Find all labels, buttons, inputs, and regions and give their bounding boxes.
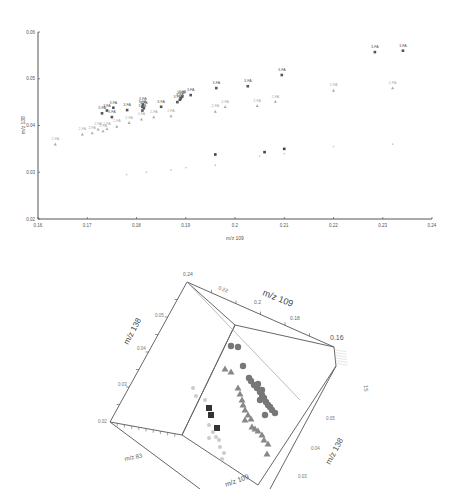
point-label: 2-FA: [99, 124, 107, 128]
point-label: 2-FA: [272, 95, 280, 99]
x-tick-label: 0.24: [428, 223, 437, 228]
x-tick-3d: 0.22: [218, 284, 229, 293]
x-axis-label-3d: m/z 109: [261, 288, 294, 309]
x-tick-3d: 0.16: [330, 334, 344, 341]
x-tick-label: 0.19: [181, 223, 190, 228]
point-label: 2-FA: [88, 126, 96, 130]
x-tick-label: 0.18: [132, 223, 141, 228]
point-label: 3-FA: [399, 44, 407, 48]
x-tick-3d: 0.24: [183, 271, 193, 277]
point-label: 3-FA: [108, 110, 116, 114]
y-tick-label: 0.04: [26, 123, 35, 128]
x-axis-label: m/z 109: [226, 235, 244, 241]
point-label: 2-FA: [138, 112, 146, 116]
point-label: 2-FA: [389, 81, 397, 85]
x2-axis-label-3d: m/z 109: [224, 473, 250, 488]
x-tick-label: 0.21: [280, 223, 289, 228]
y-axis-label: m/z 138: [20, 116, 26, 134]
y-tick-label: 0.06: [26, 30, 35, 35]
plot3d-svg: m/z 109 m/z 138 m/z 83 m/z 109 m/z 138 1…: [0, 245, 454, 489]
point-label: 3-FA: [98, 106, 106, 110]
y-tick-label: 0.05: [26, 76, 35, 81]
point-label: 3-FA: [371, 45, 379, 49]
point-label: 2-FA: [253, 99, 261, 103]
point-label: 3-FA: [157, 100, 165, 104]
point-label: 2-FA: [330, 83, 338, 87]
y-tick-3d: 0.05: [155, 313, 164, 318]
point-label: 2-FA: [113, 119, 121, 123]
point-label: 2-FA: [125, 116, 133, 120]
point-label: 3-FA: [278, 68, 286, 72]
x-tick-3d: 0.18: [290, 315, 300, 321]
x-tick-label: 0.2: [232, 223, 239, 228]
y2-axis-label-3d: m/z 138: [324, 436, 346, 466]
tick-marks-3d: [117, 290, 348, 437]
point-label: 3-FA: [139, 104, 147, 108]
y-axis-label-3d: m/z 138: [122, 316, 144, 346]
data-points-3d: [191, 343, 278, 461]
point-label: 3-FA: [123, 103, 131, 107]
y-tick-label: 0.02: [26, 217, 35, 222]
point-label: 3-FA: [244, 79, 252, 83]
scatter-plot-2d: 0.160.170.180.190.20.210.220.230.240.020…: [0, 0, 454, 245]
x-tick-label: 0.22: [329, 223, 338, 228]
x-tick-label: 0.17: [83, 223, 92, 228]
point-label: 3-FA: [212, 81, 220, 85]
point-label: 3-FA: [110, 101, 118, 105]
y-tick-label: 0.03: [26, 170, 35, 175]
z-tick-label-3d: 15: [363, 385, 369, 392]
y2-tick-3d: 0.04: [311, 446, 320, 451]
point-label: 2-FA: [150, 110, 158, 114]
y-tick-3d: 0.02: [98, 419, 107, 424]
point-label: 2-FA: [79, 127, 87, 131]
scatter-svg: 0.160.170.180.190.20.210.220.230.240.020…: [0, 0, 454, 245]
point-label: 2-FA: [212, 104, 220, 108]
y2-tick-3d: 0.05: [326, 416, 335, 421]
x-tick-label: 0.23: [378, 223, 387, 228]
x-tick-3d: 0.2: [254, 299, 261, 305]
z-axis-label-3d: m/z 83: [124, 452, 144, 462]
y-tick-3d: 0.04: [137, 346, 146, 351]
point-label: 3-FA: [187, 88, 195, 92]
point-label: 2-FA: [51, 137, 59, 141]
x-tick-label: 0.16: [34, 223, 43, 228]
data-points: 3-FA3-FA3-FA3-FA3-FA3-FA3-FA3-FA3-FA3-FA…: [51, 44, 407, 176]
point-label: 2-FA: [221, 100, 229, 104]
point-label: 3-FA: [174, 95, 182, 99]
scatter-plot-3d: m/z 109 m/z 138 m/z 83 m/z 109 m/z 138 1…: [0, 245, 454, 489]
y2-tick-3d: 0.03: [298, 474, 307, 479]
point-label: 2-FA: [167, 109, 175, 113]
y-tick-3d: 0.03: [118, 382, 127, 387]
